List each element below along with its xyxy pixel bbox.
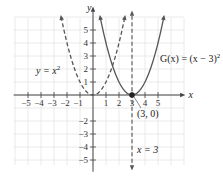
y-tick-label: 3: [84, 51, 89, 61]
arrowhead-icon: [59, 15, 64, 20]
arrowhead-icon: [98, 15, 103, 20]
label-x-equals-3: x = 3: [136, 144, 158, 155]
x-tick-label: 5: [156, 98, 161, 108]
y-tick-label: 2: [84, 64, 89, 74]
x-axis-label: x: [188, 89, 194, 100]
x-tick-label: 2: [117, 98, 122, 108]
arrowhead-icon: [130, 11, 134, 16]
x-tick-label: −3: [47, 98, 57, 108]
y-tick-label: −5: [78, 155, 88, 165]
vertex-point: [129, 92, 135, 98]
arrowhead-icon: [130, 165, 134, 170]
y-tick-label: −4: [78, 142, 88, 152]
annotation-leader-line: [134, 97, 141, 108]
y-axis-label: y: [86, 2, 92, 13]
label-vertex-point: (3, 0): [137, 108, 159, 120]
x-tick-label: −5: [21, 98, 31, 108]
label-G-of-x: G(x) = (x − 3)2: [160, 52, 221, 65]
x-tick-label: 1: [104, 98, 109, 108]
x-tick-label: 4: [143, 98, 148, 108]
x-axis-arrow-icon: [180, 93, 185, 97]
x-tick-label: 3: [130, 98, 135, 108]
y-axis-arrow-icon: [91, 7, 95, 12]
x-tick-label: −1: [73, 98, 83, 108]
y-tick-label: 5: [84, 25, 89, 35]
labels: −5−4−3−2−11234554321−2−3−4−5xyy = x2G(x)…: [21, 2, 221, 165]
graph-figure: −5−4−3−2−11234554321−2−3−4−5xyy = x2G(x)…: [0, 0, 223, 179]
x-tick-label: −2: [60, 98, 70, 108]
y-tick-label: 4: [84, 38, 89, 48]
y-tick-label: −3: [78, 129, 88, 139]
arrowhead-icon: [122, 15, 127, 20]
x-tick-label: −4: [34, 98, 44, 108]
arrowhead-icon: [161, 15, 166, 20]
y-tick-label: 1: [84, 77, 89, 87]
y-tick-label: −2: [78, 116, 88, 126]
label-y-equals-x-squared: y = x2: [35, 64, 61, 76]
